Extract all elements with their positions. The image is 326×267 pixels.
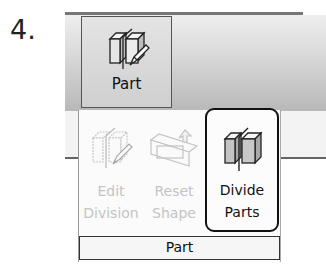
edit-division-icon <box>89 126 133 170</box>
part-icon <box>106 27 150 71</box>
ribbon-divider-left <box>65 157 79 159</box>
ribbon-group-label: Part <box>79 236 280 260</box>
edit-division-label: Edit Division <box>79 180 143 224</box>
divide-parts-button[interactable]: Divide Parts <box>205 108 279 232</box>
reset-shape-button[interactable]: Reset Shape <box>143 110 205 234</box>
divide-parts-icon <box>221 127 265 171</box>
part-button[interactable]: Part <box>81 16 172 108</box>
reset-shape-icon <box>149 126 193 170</box>
ribbon-divider-right <box>280 157 326 159</box>
part-button-label: Part <box>82 75 171 93</box>
edit-division-button[interactable]: Edit Division <box>79 110 143 234</box>
reset-shape-label: Reset Shape <box>143 180 205 224</box>
divide-parts-label: Divide Parts <box>207 179 277 223</box>
step-number: 4. <box>10 14 36 45</box>
